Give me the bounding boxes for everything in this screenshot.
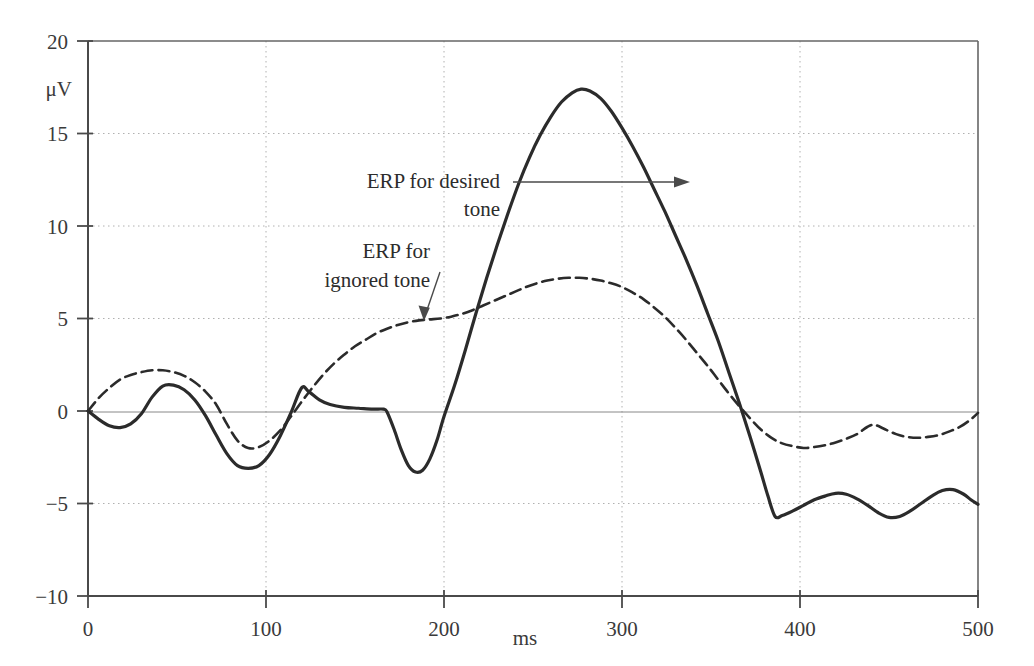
x-tick-label-200: 200: [428, 617, 460, 641]
x-tick-label-500: 500: [962, 617, 994, 641]
y-tick-label--10: −10: [35, 585, 68, 609]
erp-chart-figure: −10−505101520 0100200300400500 μV ms ERP…: [0, 0, 1034, 666]
y-tick-label-15: 15: [47, 122, 68, 146]
x-tick-label-300: 300: [606, 617, 638, 641]
x-tick-label-100: 100: [250, 617, 282, 641]
y-tick-label--5: −5: [46, 492, 68, 516]
ignored-tone-annotation-line1: ERP for: [363, 239, 430, 263]
y-tick-label-5: 5: [58, 307, 69, 331]
desired-tone-annotation-line2: tone: [464, 197, 500, 221]
x-tick-label-0: 0: [83, 617, 94, 641]
ignored-tone-annotation-line2: ignored tone: [324, 268, 430, 292]
y-tick-label-20: 20: [47, 30, 68, 54]
desired-tone-annotation-line1: ERP for desired: [367, 169, 501, 193]
x-tick-label-400: 400: [784, 617, 816, 641]
y-tick-label-0: 0: [58, 400, 69, 424]
y-tick-label-10: 10: [47, 215, 68, 239]
x-axis-unit-label: ms: [513, 626, 538, 650]
chart-background: [0, 0, 1034, 666]
erp-chart-svg: −10−505101520 0100200300400500 μV ms ERP…: [0, 0, 1034, 666]
y-axis-unit-label: μV: [46, 77, 72, 101]
